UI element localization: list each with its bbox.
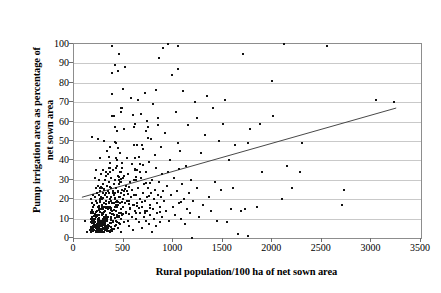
data-point (92, 230, 94, 232)
data-point (99, 157, 101, 159)
data-point (119, 181, 121, 183)
data-point (160, 196, 162, 198)
data-point (150, 192, 152, 194)
data-point (214, 181, 216, 183)
data-point (155, 167, 157, 169)
data-point (91, 136, 93, 138)
data-point (120, 212, 122, 214)
data-point (132, 229, 134, 231)
data-point (110, 216, 112, 218)
data-point (123, 190, 125, 192)
data-point (120, 208, 122, 210)
data-point (109, 186, 111, 188)
data-point (175, 111, 177, 113)
data-point (106, 150, 108, 152)
data-point (134, 157, 136, 159)
data-point (121, 167, 123, 169)
data-point (95, 169, 97, 171)
data-point (173, 177, 175, 179)
data-point (281, 198, 283, 200)
data-point (218, 140, 220, 142)
data-point (145, 130, 147, 132)
data-point (159, 206, 161, 208)
data-point (144, 92, 146, 94)
data-point (186, 208, 188, 210)
data-point (154, 189, 156, 191)
data-point (112, 220, 114, 222)
data-point (126, 200, 128, 202)
data-point (228, 159, 230, 161)
data-point (94, 177, 96, 179)
data-point (154, 154, 156, 156)
y-axis-title-line2: net sown area (44, 100, 55, 160)
data-point (393, 101, 395, 103)
data-point (272, 115, 274, 117)
data-point (112, 169, 114, 171)
y-tick-label: 30 (41, 173, 69, 184)
x-tick-mark (222, 238, 223, 242)
data-point (156, 202, 158, 204)
data-point (343, 189, 345, 191)
data-point (116, 130, 118, 132)
data-point (167, 43, 169, 45)
x-tick-mark (370, 238, 371, 242)
data-point (101, 214, 103, 216)
data-point (194, 101, 196, 103)
data-point (110, 177, 112, 179)
data-point (133, 126, 135, 128)
data-point (107, 173, 109, 175)
data-point (167, 171, 169, 173)
data-point (94, 215, 96, 217)
data-point (181, 183, 183, 185)
data-point (123, 194, 125, 196)
data-point (131, 163, 133, 165)
data-point (157, 124, 159, 126)
data-point (114, 141, 116, 143)
data-point (120, 231, 122, 233)
data-point (147, 137, 149, 139)
data-point (86, 231, 88, 233)
data-point (234, 144, 236, 146)
data-point (92, 206, 94, 208)
data-point (114, 217, 116, 219)
data-point (131, 216, 133, 218)
data-point (261, 171, 263, 173)
data-point (126, 157, 128, 159)
data-point (98, 225, 100, 227)
data-point (110, 229, 112, 231)
data-point (106, 196, 108, 198)
data-point (191, 237, 193, 239)
data-point (159, 211, 161, 213)
data-point (98, 179, 100, 181)
data-point (108, 181, 110, 183)
data-point (136, 205, 138, 207)
data-point (123, 128, 125, 130)
data-point (200, 152, 202, 154)
y-axis-title-line1: Pump irrigation area as percentage of (31, 47, 42, 213)
data-point (160, 146, 162, 148)
data-point (132, 114, 134, 116)
data-point (138, 156, 140, 158)
data-point (104, 220, 106, 222)
y-tick-label: 50 (41, 135, 69, 146)
x-tick-label: 3500 (400, 242, 440, 253)
data-point (139, 163, 141, 165)
data-point (220, 189, 222, 191)
y-tick-label: 20 (41, 193, 69, 204)
data-point (145, 220, 147, 222)
data-point (151, 231, 153, 233)
data-point (166, 185, 168, 187)
data-point (127, 220, 129, 222)
data-point (99, 201, 101, 203)
data-point (120, 218, 122, 220)
data-point (153, 198, 155, 200)
data-point (148, 195, 150, 197)
data-point (162, 190, 164, 192)
data-point (137, 187, 139, 189)
data-point (174, 214, 176, 216)
data-point (127, 193, 129, 195)
data-point (111, 45, 113, 47)
data-point (110, 222, 112, 224)
data-point (122, 206, 124, 208)
data-point (97, 138, 99, 140)
